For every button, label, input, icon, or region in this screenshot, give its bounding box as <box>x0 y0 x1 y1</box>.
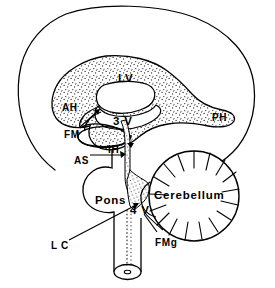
spinal-cord <box>114 210 141 280</box>
label-cerebellum: Cerebellum <box>154 190 225 202</box>
brain-ventricle-diagram: LV AH PH 3 V FM IH AS Pons Cerebellum 4 … <box>0 0 275 288</box>
label-fm: FM <box>64 130 80 140</box>
label-3v: 3 V <box>113 116 133 128</box>
label-fmg: FMg <box>155 238 177 248</box>
label-as: AS <box>74 156 89 166</box>
label-ah: AH <box>62 103 78 113</box>
label-lc: L C <box>51 241 69 251</box>
label-lv: LV <box>118 73 133 85</box>
brain-diagram-svg <box>0 0 275 288</box>
label-ih: IH <box>108 145 119 155</box>
label-ph: PH <box>212 113 227 123</box>
label-4v: 4 V <box>130 205 150 217</box>
label-pons: Pons <box>95 195 126 207</box>
leader-lc <box>69 204 138 240</box>
